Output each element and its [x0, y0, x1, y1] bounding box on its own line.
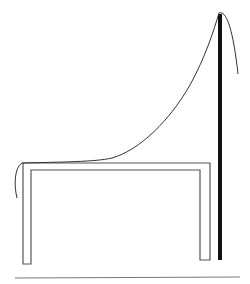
- table-outline: [23, 163, 210, 264]
- ground-line: [15, 277, 240, 278]
- diagram-canvas: [0, 0, 250, 284]
